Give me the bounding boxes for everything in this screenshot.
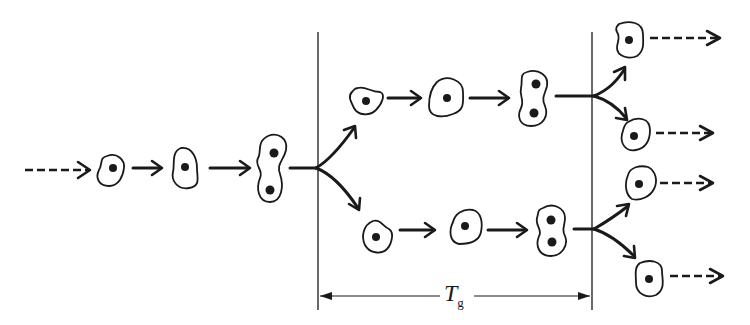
daughter-top-cell-1	[350, 88, 383, 115]
arrow	[388, 91, 421, 105]
generation-time-symbol: T	[444, 280, 457, 306]
split-arrow-bottom	[574, 204, 635, 258]
arrow	[488, 223, 527, 237]
granddaughter-cell-1	[616, 22, 643, 57]
parent-cell-1	[97, 155, 124, 186]
daughter-bottom-cell-1	[363, 221, 392, 253]
parent-cell-2	[173, 148, 198, 188]
arrow	[470, 91, 509, 105]
arrow	[133, 161, 162, 175]
split-arrow-1	[290, 126, 360, 210]
arrow	[400, 223, 435, 237]
daughter-top-cell-2	[429, 78, 463, 116]
outgoing-dashed-arrow	[660, 176, 713, 190]
arrow	[210, 161, 250, 175]
daughter-bottom-dividing-cell	[537, 206, 566, 256]
outgoing-dashed-arrow	[656, 126, 713, 140]
granddaughter-cell-3	[626, 166, 656, 199]
incoming-dashed-arrow	[25, 162, 90, 178]
outgoing-dashed-arrow	[670, 269, 723, 283]
granddaughter-cell-2	[622, 119, 650, 151]
generation-time-label: Tg	[440, 280, 468, 307]
outgoing-dashed-arrow	[650, 31, 720, 45]
cell-division-diagram	[0, 0, 750, 325]
generation-time-subscript: g	[457, 295, 464, 310]
parent-dividing-cell	[257, 135, 286, 202]
daughter-top-dividing-cell	[519, 71, 547, 126]
daughter-bottom-cell-2	[451, 210, 482, 244]
granddaughter-cell-4	[636, 261, 663, 296]
